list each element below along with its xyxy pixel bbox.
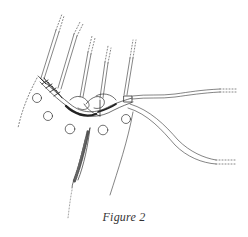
- trailing-cords: [128, 89, 236, 164]
- fabric-outline: [18, 78, 133, 218]
- vertical-cords: [41, 14, 136, 98]
- figure-caption: Figure 2: [0, 210, 248, 225]
- figure: Figure 2: [0, 0, 248, 237]
- figure-illustration: [0, 0, 248, 237]
- tassel: [72, 128, 90, 188]
